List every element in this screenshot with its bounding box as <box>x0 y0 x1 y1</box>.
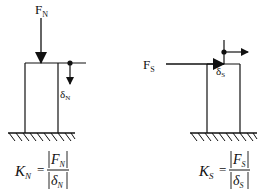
shear-stiffness-figure: FS δS <box>143 40 257 190</box>
normal-displacement-label: δN <box>60 88 70 102</box>
shear-ground-hatch <box>190 133 257 141</box>
shear-formula-equals: = <box>219 162 226 177</box>
shear-formula-lhs: KS <box>198 163 214 181</box>
normal-formula-numerator: FN <box>50 152 66 169</box>
shear-displacement-label: δS <box>216 65 225 79</box>
normal-formula-equals: = <box>37 162 44 177</box>
normal-stiffness-figure: FN δN K <box>8 2 86 190</box>
shear-force-label: FS <box>143 57 155 74</box>
normal-force-label: FN <box>35 2 48 19</box>
shear-formula-denominator: δS <box>233 173 244 190</box>
shear-stiffness-formula: KS = FS δS <box>198 151 250 190</box>
stiffness-diagram: FN δN K <box>0 0 262 195</box>
normal-stiffness-formula: KN = FN δN <box>14 151 69 190</box>
normal-formula-denominator: δN <box>51 173 64 190</box>
normal-formula-lhs: KN <box>14 163 32 181</box>
shear-formula-numerator: FS <box>232 152 246 169</box>
normal-ground-hatch <box>8 133 75 141</box>
